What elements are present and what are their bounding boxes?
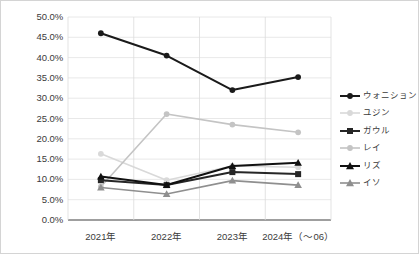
line-chart-container: 0.0%5.0%10.0%15.0%20.0%25.0%30.0%35.0%40… [0, 0, 419, 254]
y-axis-tick-label: 5.0% [15, 194, 63, 205]
y-axis-tick-label: 20.0% [15, 133, 63, 144]
circle-gray-icon [339, 140, 361, 152]
legend-item[interactable]: ガウル [339, 120, 417, 138]
legend-item-label: ユジン [363, 105, 390, 117]
y-axis-tick-label: 30.0% [15, 92, 63, 103]
triangle-dark-icon [339, 158, 361, 170]
y-axis-tick-label: 40.0% [15, 52, 63, 63]
data-point [98, 30, 104, 36]
circle-dark-icon [339, 88, 361, 100]
y-axis-tick-label: 45.0% [15, 31, 63, 42]
circle-light-icon [339, 105, 361, 117]
x-axis-tick-label: 2024年（～06） [257, 229, 339, 243]
y-axis-tick-label: 10.0% [15, 173, 63, 184]
y-axis-tick-label: 35.0% [15, 72, 63, 83]
legend-item-label: リズ [363, 158, 381, 170]
data-point [295, 171, 301, 177]
legend-item[interactable]: イソ [339, 173, 417, 191]
legend-item[interactable]: レイ [339, 138, 417, 156]
data-point [164, 53, 170, 59]
legend-item-label: ガウル [363, 123, 390, 135]
legend-item-label: イソ [363, 175, 381, 187]
data-point [164, 111, 170, 117]
square-dark-icon [339, 123, 361, 135]
triangle-gray-icon [339, 175, 361, 187]
data-point [229, 87, 235, 93]
legend-item-label: レイ [363, 140, 381, 152]
legend-item[interactable]: ユジン [339, 103, 417, 121]
y-axis-tick-label: 0.0% [15, 214, 63, 225]
data-point [98, 151, 104, 157]
chart-legend: ウォニションユジンガウルレイリズイソ [339, 85, 417, 190]
data-point [295, 129, 301, 135]
data-point [295, 74, 301, 80]
data-point [229, 122, 235, 128]
legend-item[interactable]: ウォニション [339, 85, 417, 103]
y-axis-tick-label: 50.0% [15, 11, 63, 22]
y-axis-tick-label: 15.0% [15, 153, 63, 164]
legend-item[interactable]: リズ [339, 155, 417, 173]
y-axis-tick-label: 25.0% [15, 113, 63, 124]
data-point [229, 169, 235, 175]
legend-item-label: ウォニション [363, 88, 417, 100]
